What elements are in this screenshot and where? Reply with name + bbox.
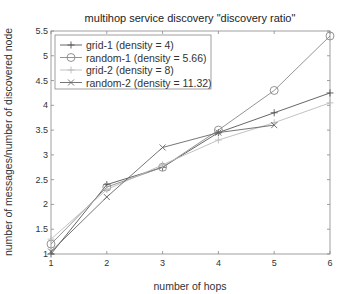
y-tick-label: 5.5 bbox=[35, 26, 48, 36]
x-tick-label: 4 bbox=[216, 258, 221, 268]
x-tick-label: 6 bbox=[327, 258, 332, 268]
x-tick-label: 5 bbox=[272, 258, 277, 268]
y-tick-label: 3 bbox=[43, 150, 48, 160]
x-axis-label: number of hops bbox=[154, 280, 227, 292]
chart-title: multihop service discovery "discovery ra… bbox=[85, 12, 296, 24]
x-tick-label: 2 bbox=[104, 258, 109, 268]
y-tick-label: 4.5 bbox=[35, 76, 48, 86]
y-tick-label: 1 bbox=[43, 249, 48, 259]
y-tick-label: 4 bbox=[43, 100, 48, 110]
legend-label: grid-1 (density = 4) bbox=[86, 39, 174, 51]
legend: grid-1 (density = 4)random-1 (density = … bbox=[55, 35, 212, 89]
x-tick-label: 3 bbox=[160, 258, 165, 268]
y-tick-label: 5 bbox=[43, 51, 48, 61]
y-tick-label: 3.5 bbox=[35, 125, 48, 135]
legend-label: grid-2 (density = 8) bbox=[86, 64, 174, 76]
y-tick-label: 2 bbox=[43, 199, 48, 209]
legend-label: random-2 (density = 11.32) bbox=[86, 77, 212, 89]
x-tick-label: 1 bbox=[48, 258, 53, 268]
y-tick-label: 1.5 bbox=[35, 224, 48, 234]
y-axis-label: number of messages/number of discovered … bbox=[2, 28, 14, 256]
line-chart: multihop service discovery "discovery ra… bbox=[0, 0, 348, 294]
legend-label: random-1 (density = 5.66) bbox=[86, 52, 207, 64]
y-tick-label: 2.5 bbox=[35, 175, 48, 185]
